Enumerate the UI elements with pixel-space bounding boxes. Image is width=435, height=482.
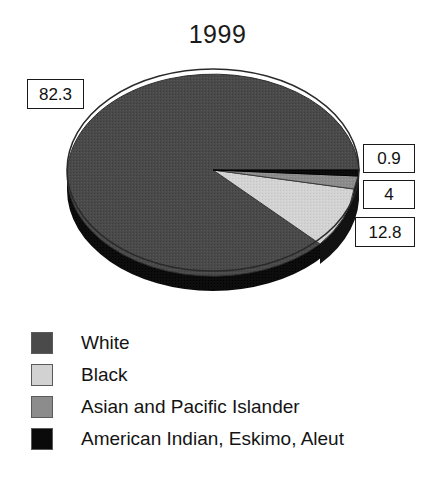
legend-swatch-icon-asian [31,396,53,418]
legend-item-asian: Asian and Pacific Islander [31,391,431,423]
legend-item-white: White [31,327,431,359]
pie-slices [67,69,359,276]
value-label-black: 12.8 [355,217,415,247]
legend-label-asian: Asian and Pacific Islander [81,396,300,418]
legend-item-american-indian: American Indian, Eskimo, Aleut [31,423,431,455]
value-label-american-indian: 0.9 [363,144,415,173]
legend-swatch-icon-black [31,364,53,386]
value-label-white: 82.3 [27,79,84,109]
pie-chart-figure [52,58,382,303]
legend-label-american-indian: American Indian, Eskimo, Aleut [81,428,344,450]
legend-swatch-icon-american-indian [31,428,53,450]
value-label-asian: 4 [363,180,415,209]
pie-chart-svg [52,58,382,303]
legend-label-white: White [81,332,130,354]
legend-item-black: Black [31,359,431,391]
legend-swatch-icon-white [31,332,53,354]
legend-label-black: Black [81,364,127,386]
chart-legend: White Black Asian and Pacific Islander A… [31,327,431,455]
chart-title: 1999 [0,20,435,49]
